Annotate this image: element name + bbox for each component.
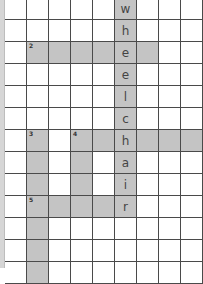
grid-cell: [49, 20, 71, 42]
answer-cell[interactable]: h: [115, 130, 137, 152]
grid-cell: [93, 86, 115, 108]
answer-cell[interactable]: [27, 262, 49, 284]
grid-cell: [137, 218, 159, 240]
grid-cell: [159, 262, 181, 284]
cell-letter: e: [115, 42, 136, 63]
grid-cell: [71, 20, 93, 42]
grid-cell: [181, 196, 203, 218]
grid-cell: [159, 108, 181, 130]
answer-cell[interactable]: [27, 218, 49, 240]
grid-cell: [181, 64, 203, 86]
grid-cell: [49, 174, 71, 196]
grid-cell: [181, 240, 203, 262]
grid-cell: [137, 240, 159, 262]
crossword-grid: w1h2eelc34hai5r: [5, 0, 203, 270]
grid-cell: [115, 262, 137, 284]
grid-cell: [159, 20, 181, 42]
grid-cell: [49, 240, 71, 262]
answer-cell[interactable]: e: [115, 42, 137, 64]
grid-cell: [49, 64, 71, 86]
grid-cell: [5, 64, 27, 86]
answer-cell[interactable]: [137, 42, 159, 64]
cell-letter: r: [115, 196, 136, 217]
answer-cell[interactable]: r: [115, 196, 137, 218]
answer-cell[interactable]: [49, 42, 71, 64]
answer-cell[interactable]: [71, 152, 93, 174]
grid-cell: [93, 108, 115, 130]
answer-cell[interactable]: a: [115, 152, 137, 174]
answer-cell[interactable]: 5: [27, 196, 49, 218]
answer-cell[interactable]: h: [115, 20, 137, 42]
grid-cell: [137, 108, 159, 130]
grid-cell: [27, 20, 49, 42]
answer-cell[interactable]: [27, 240, 49, 262]
answer-cell[interactable]: [159, 130, 181, 152]
grid-cell: [137, 64, 159, 86]
clue-number: 1: [117, 0, 121, 1]
answer-cell[interactable]: [27, 152, 49, 174]
grid-cell: [5, 86, 27, 108]
grid-cell: [181, 86, 203, 108]
answer-cell[interactable]: [27, 174, 49, 196]
grid-cell: [71, 218, 93, 240]
grid-cell: [159, 64, 181, 86]
answer-cell[interactable]: 2: [27, 42, 49, 64]
clue-number: 3: [29, 131, 33, 137]
answer-cell[interactable]: [93, 42, 115, 64]
grid-cell: [115, 218, 137, 240]
answer-cell[interactable]: l: [115, 86, 137, 108]
grid-cell: [71, 240, 93, 262]
answer-cell[interactable]: [181, 130, 203, 152]
grid-cell: [115, 240, 137, 262]
answer-cell[interactable]: 4: [71, 130, 93, 152]
grid-cell: [93, 262, 115, 284]
grid-cell: [93, 0, 115, 20]
cell-letter: e: [115, 64, 136, 85]
grid-cell: [49, 130, 71, 152]
grid-cell: [137, 174, 159, 196]
grid-cell: [181, 20, 203, 42]
answer-cell[interactable]: e: [115, 64, 137, 86]
cell-letter: h: [115, 130, 136, 151]
cell-letter: i: [115, 174, 136, 195]
answer-cell[interactable]: [71, 42, 93, 64]
answer-cell[interactable]: [71, 196, 93, 218]
clue-number: 2: [29, 43, 33, 49]
grid-cell: [137, 262, 159, 284]
grid-cell: [159, 0, 181, 20]
grid-cell: [159, 152, 181, 174]
grid-cell: [159, 218, 181, 240]
answer-cell[interactable]: [93, 130, 115, 152]
grid-cell: [93, 218, 115, 240]
grid-cell: [49, 108, 71, 130]
answer-cell[interactable]: [93, 196, 115, 218]
answer-cell[interactable]: [71, 174, 93, 196]
grid-cell: [93, 174, 115, 196]
grid-cell: [93, 64, 115, 86]
grid-cell: [181, 218, 203, 240]
answer-cell[interactable]: [137, 130, 159, 152]
cell-letter: h: [115, 20, 136, 41]
grid-cell: [181, 262, 203, 284]
grid-cell: [93, 20, 115, 42]
grid-cell: [5, 174, 27, 196]
clue-number: 4: [73, 131, 77, 137]
grid-cell: [71, 0, 93, 20]
grid-cell: [71, 86, 93, 108]
answer-cell[interactable]: i: [115, 174, 137, 196]
answer-cell[interactable]: 3: [27, 130, 49, 152]
grid-cell: [27, 0, 49, 20]
answer-cell[interactable]: [49, 196, 71, 218]
grid-cell: [5, 20, 27, 42]
grid-cell: [159, 86, 181, 108]
grid-cell: [49, 262, 71, 284]
grid-cell: [27, 108, 49, 130]
answer-cell[interactable]: w1: [115, 0, 137, 20]
grid-cell: [93, 152, 115, 174]
grid-cell: [137, 0, 159, 20]
grid-cell: [137, 196, 159, 218]
answer-cell[interactable]: c: [115, 108, 137, 130]
cell-letter: w: [115, 0, 136, 19]
grid-cell: [71, 262, 93, 284]
grid-cell: [71, 64, 93, 86]
